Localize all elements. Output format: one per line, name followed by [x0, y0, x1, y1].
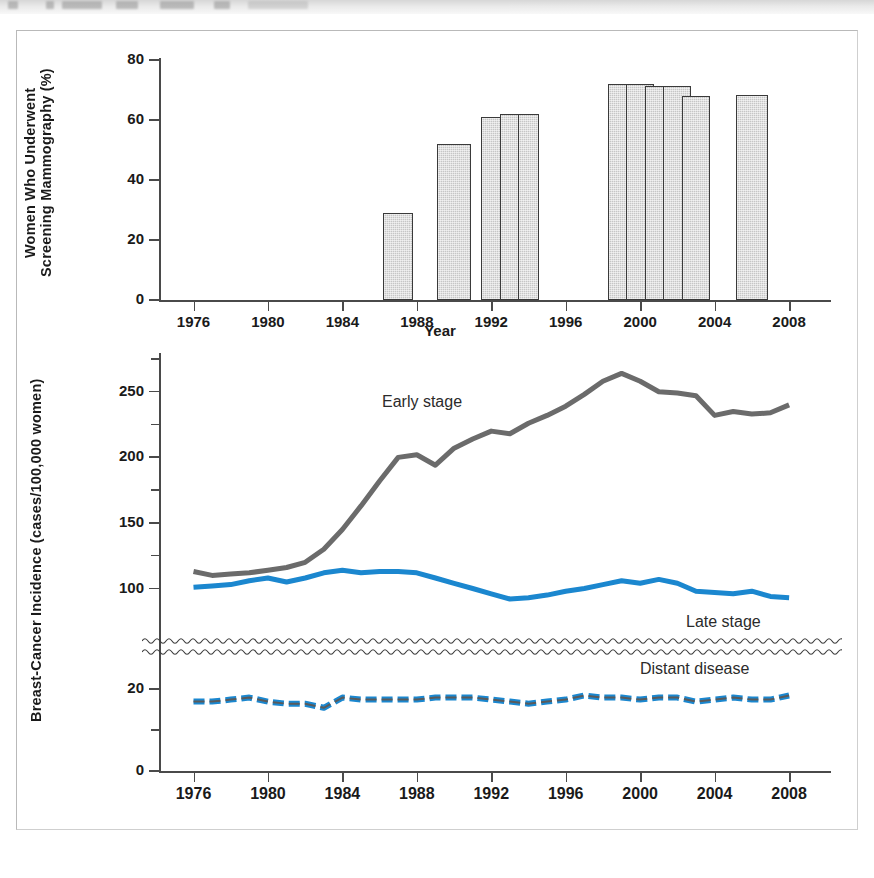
bar	[437, 144, 471, 300]
x-tick	[789, 773, 791, 782]
x-tick-label: 1992	[459, 785, 523, 803]
axis-break-wavy	[142, 633, 842, 659]
x-tick	[268, 302, 270, 311]
bar-plot-area	[160, 60, 830, 300]
y-tick-label: 200	[96, 447, 144, 464]
bar	[383, 213, 413, 300]
x-tick-label: 1976	[164, 313, 224, 330]
y-minor-tick	[151, 555, 160, 557]
y-minor-tick	[151, 729, 160, 731]
x-tick	[417, 773, 419, 782]
line-y-axis-title: Breast-Cancer Incidence (cases/100,000 w…	[28, 370, 86, 730]
x-tick-label: 2000	[610, 313, 670, 330]
mammography-bar-panel: Women Who Underwent Screening Mammograph…	[0, 30, 874, 335]
x-tick	[640, 302, 642, 311]
y-tick-label: 60	[104, 110, 144, 127]
y-tick	[149, 688, 160, 690]
y-tick-label: 250	[96, 382, 144, 399]
x-tick-label: 2008	[757, 785, 821, 803]
bar-y-axis-title: Women Who Underwent Screening Mammograph…	[22, 58, 80, 288]
y-tick	[149, 456, 160, 458]
bar	[736, 95, 768, 301]
y-tick-label: 0	[96, 761, 144, 778]
x-tick	[789, 302, 791, 311]
y-tick	[149, 59, 160, 61]
x-tick-label: 2004	[685, 313, 745, 330]
x-tick-label: 2004	[683, 785, 747, 803]
incidence-line-panel: Breast-Cancer Incidence (cases/100,000 w…	[0, 335, 874, 835]
y-tick	[149, 119, 160, 121]
y-tick-label: 150	[96, 513, 144, 530]
x-tick	[566, 302, 568, 311]
x-tick-label: 1980	[238, 313, 298, 330]
x-tick-label: 1984	[310, 785, 374, 803]
incidence-plot-area	[160, 351, 860, 781]
x-tick	[491, 302, 493, 311]
bar	[481, 117, 501, 300]
x-tick-label: 1996	[534, 785, 598, 803]
x-tick	[417, 302, 419, 311]
y-minor-tick	[151, 358, 160, 360]
series-line-late-stage	[194, 570, 790, 599]
y-tick	[149, 179, 160, 181]
series-line-early-stage	[194, 373, 790, 575]
y-tick	[149, 239, 160, 241]
annotation-late-stage: Late stage	[686, 613, 761, 631]
bar	[500, 114, 520, 300]
scanned-page-header	[0, 0, 874, 14]
x-tick	[715, 773, 717, 782]
y-tick-label: 0	[104, 290, 144, 307]
bar	[682, 96, 710, 300]
y-tick	[149, 522, 160, 524]
x-tick-label: 1996	[536, 313, 596, 330]
line-x-axis-line	[159, 771, 831, 773]
y-tick-label: 20	[104, 230, 144, 247]
x-tick	[194, 302, 196, 311]
y-minor-tick	[151, 489, 160, 491]
x-tick-label: 2008	[759, 313, 819, 330]
y-tick-label: 100	[96, 579, 144, 596]
x-tick-label: 1976	[162, 785, 226, 803]
x-tick-label: 2000	[608, 785, 672, 803]
y-tick-label: 40	[104, 170, 144, 187]
x-tick-label: 1984	[312, 313, 372, 330]
y-tick	[149, 391, 160, 393]
bar-x-axis-line	[159, 300, 831, 302]
x-tick	[566, 773, 568, 782]
x-tick	[491, 773, 493, 782]
x-tick	[640, 773, 642, 782]
x-tick	[268, 773, 270, 782]
x-tick-label: 1988	[385, 785, 449, 803]
y-tick-label: 80	[104, 50, 144, 67]
x-tick	[715, 302, 717, 311]
y-minor-tick	[151, 424, 160, 426]
x-tick	[342, 773, 344, 782]
x-tick	[194, 773, 196, 782]
x-tick-label: 1980	[236, 785, 300, 803]
y-tick	[149, 588, 160, 590]
y-tick-label: 20	[96, 679, 144, 696]
annotation-early-stage: Early stage	[382, 393, 462, 411]
bar	[518, 114, 538, 300]
annotation-distant-disease: Distant disease	[640, 660, 749, 678]
x-tick	[342, 302, 344, 311]
